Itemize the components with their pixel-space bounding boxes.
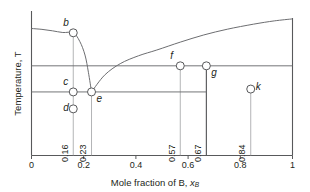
phase-diagram-figure: Temperature, T Mole fraction of B, xB 00… [0,0,310,192]
liquidus-curve [32,29,92,92]
composition-label: 0.84 [238,144,247,162]
x-axis-tick-label: 0.4 [122,161,150,170]
point-label-b: b [63,18,69,28]
point-label-g: g [211,68,217,78]
liquidus-curve [92,19,293,92]
x-axis-title: Mole fraction of B, xB [0,172,310,190]
point-label-d: d [63,103,69,113]
data-point-e[interactable] [88,88,96,96]
point-label-e: e [97,94,103,104]
data-point-b[interactable] [69,29,77,37]
data-point-g[interactable] [202,62,210,70]
composition-label: 0.23 [79,144,88,162]
data-point-k[interactable] [247,85,255,93]
data-point-c[interactable] [69,88,77,96]
composition-label: 0.16 [61,144,70,162]
x-axis-tick-label: 1 [279,161,307,170]
composition-label: 0.57 [168,144,177,162]
phase-diagram-canvas [0,0,310,192]
point-label-k: k [256,82,261,92]
point-label-f: f [170,51,173,61]
y-axis-title: Temperature, T [12,36,23,132]
point-label-c: c [63,77,68,87]
x-axis-title-subscript: B [195,181,199,188]
data-point-f[interactable] [176,62,184,70]
x-axis-tick-label: 0 [18,161,46,170]
data-point-d[interactable] [69,105,77,113]
x-axis-title-text: Mole fraction of B, [111,177,190,188]
composition-label: 0.67 [194,144,203,162]
